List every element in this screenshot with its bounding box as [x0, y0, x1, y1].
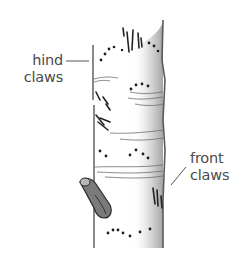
tree-trunk-illustration	[0, 0, 232, 264]
hind-claws-label: hind claws	[22, 52, 63, 86]
front-claws-label-line1: front	[190, 150, 229, 167]
front-claws-label: front claws	[190, 150, 229, 184]
hind-claws-label-line1: hind	[22, 52, 63, 69]
hind-claws-label-line2: claws	[22, 69, 63, 86]
front-claws-label-line2: claws	[190, 167, 229, 184]
front-claws-leader-line	[171, 167, 186, 185]
